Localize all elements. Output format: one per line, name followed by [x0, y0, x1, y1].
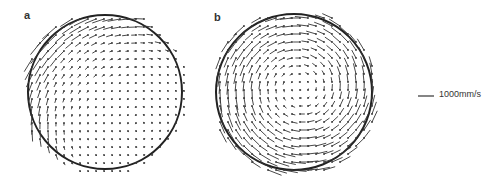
panel-b-vector-field [216, 14, 377, 176]
scale-label: 1000mm/s [439, 89, 481, 99]
boundary-circle [28, 15, 182, 169]
panel-a-vector-field [24, 15, 185, 172]
vector-field-plot [0, 0, 504, 190]
